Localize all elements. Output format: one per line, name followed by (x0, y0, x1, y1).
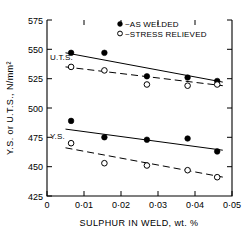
data-point (214, 149, 220, 155)
y-axis-title: Y.S. or U.T.S., N/mm² (5, 61, 15, 155)
data-point (144, 163, 150, 169)
data-point (68, 118, 74, 124)
data-point (68, 140, 74, 146)
trendline-ys-stress-relieved (66, 148, 223, 177)
annotation-ys: Y.S. (50, 132, 65, 141)
x-tick-label-004: 0·04 (186, 200, 204, 210)
y-tick-label-575: 575 (28, 16, 43, 26)
x-axis-title: SULPHUR IN WELD, wt. % (80, 218, 199, 228)
data-point (102, 50, 108, 56)
data-point (102, 68, 108, 74)
legend-marker-as-welded (118, 22, 123, 27)
y-tick-label-500: 500 (28, 104, 43, 114)
data-point (102, 160, 108, 166)
legend-marker-stress-relieved (118, 31, 123, 36)
x-tick-label-005: 0·05 (223, 200, 241, 210)
legend-label-as-welded: ~AS WELDED (125, 20, 179, 29)
data-point (214, 174, 220, 180)
series-uts-as-welded-points (68, 50, 220, 84)
data-point (68, 50, 74, 56)
data-point (185, 136, 191, 142)
data-point (144, 74, 150, 80)
axes-frame (47, 20, 232, 196)
legend-label-stress-relieved: ~STRESS RELIEVED (125, 30, 207, 39)
x-tick-label-001: 0·01 (75, 200, 93, 210)
data-point (185, 83, 191, 89)
x-tick-label-002: 0·02 (112, 200, 130, 210)
y-tick-label-525: 525 (28, 74, 43, 84)
chart-canvas: 575 550 525 500 475 450 425 0 0·01 0·02 (0, 0, 250, 239)
data-point (68, 64, 74, 70)
x-tick-label-003: 0·03 (149, 200, 167, 210)
y-tick-label-450: 450 (28, 162, 43, 172)
axis-frame-path (47, 20, 232, 196)
x-axis-ticks (47, 20, 232, 196)
legend: ~AS WELDED ~STRESS RELIEVED (118, 20, 207, 39)
data-point (144, 137, 150, 143)
data-point (185, 75, 191, 81)
x-tick-label-0: 0 (44, 200, 49, 210)
y-axis-tick-labels: 575 550 525 500 475 450 425 (28, 16, 43, 202)
y-tick-label-475: 475 (28, 133, 43, 143)
trend-lines (66, 53, 223, 177)
y-tick-label-550: 550 (28, 45, 43, 55)
y-axis-ticks (47, 20, 232, 196)
data-point (144, 82, 150, 88)
x-axis-tick-labels: 0 0·01 0·02 0·03 0·04 0·05 (44, 200, 241, 210)
data-point (102, 135, 108, 141)
chart-figure: 575 550 525 500 475 450 425 0 0·01 0·02 (0, 0, 250, 239)
series-ys-as-welded-points (68, 118, 220, 154)
y-tick-label-425: 425 (28, 192, 43, 202)
data-point (214, 82, 220, 88)
data-point (185, 167, 191, 173)
